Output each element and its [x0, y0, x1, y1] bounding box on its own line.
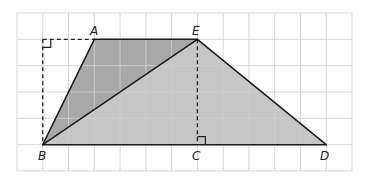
- right-angle-icon: [43, 39, 51, 47]
- label-B: B: [38, 149, 46, 163]
- label-E: E: [192, 24, 200, 38]
- trapezoid-diagram: A E B C D: [0, 0, 369, 179]
- label-C: C: [192, 149, 201, 163]
- grid: [17, 13, 352, 171]
- label-A: A: [89, 24, 98, 38]
- label-D: D: [320, 149, 329, 163]
